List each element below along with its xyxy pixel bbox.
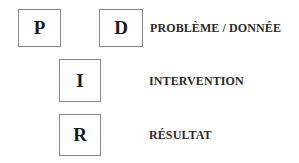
- box-r: R: [59, 114, 101, 156]
- box-i: I: [59, 59, 101, 102]
- label-resultat: RÉSULTAT: [149, 128, 212, 143]
- box-i-letter: I: [76, 70, 83, 92]
- box-r-letter: R: [73, 124, 87, 146]
- box-p: P: [18, 9, 61, 47]
- label-intervention: INTERVENTION: [149, 74, 244, 89]
- box-d-letter: D: [114, 17, 128, 39]
- box-p-letter: P: [34, 17, 46, 39]
- box-d: D: [99, 9, 143, 47]
- label-probleme-donnee: PROBLÈME / DONNÉE: [150, 21, 281, 36]
